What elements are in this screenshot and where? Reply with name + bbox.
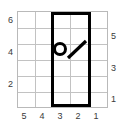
- x-axis-tick-4: 1: [91, 112, 101, 121]
- x-axis-tick-0: 5: [19, 112, 29, 121]
- y-axis-right-tick-2: 1: [111, 95, 121, 104]
- circle-marker-icon: [53, 42, 67, 56]
- y-axis-left-tick-2: 2: [3, 80, 13, 89]
- slash-marker-icon: [66, 38, 88, 60]
- y-axis-left-tick-1: 4: [3, 48, 13, 57]
- x-axis-tick-1: 4: [37, 112, 47, 121]
- x-axis-tick-2: 3: [55, 112, 65, 121]
- y-axis-right-tick-1: 3: [111, 64, 121, 73]
- figure-canvas: 6 4 2 5 3 1 5 4 3 2 1: [0, 0, 125, 127]
- y-axis-right-tick-0: 5: [111, 32, 121, 41]
- y-axis-left-tick-0: 6: [3, 16, 13, 25]
- x-axis-tick-3: 2: [73, 112, 83, 121]
